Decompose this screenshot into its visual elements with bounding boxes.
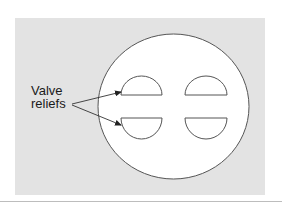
piston-crown: [98, 34, 249, 179]
valve-reliefs-label: Valve reliefs: [31, 84, 66, 110]
bottom-divider: [0, 201, 282, 202]
label-line-2: reliefs: [31, 97, 66, 110]
piston-valve-relief-diagram: Valve reliefs: [0, 0, 282, 205]
